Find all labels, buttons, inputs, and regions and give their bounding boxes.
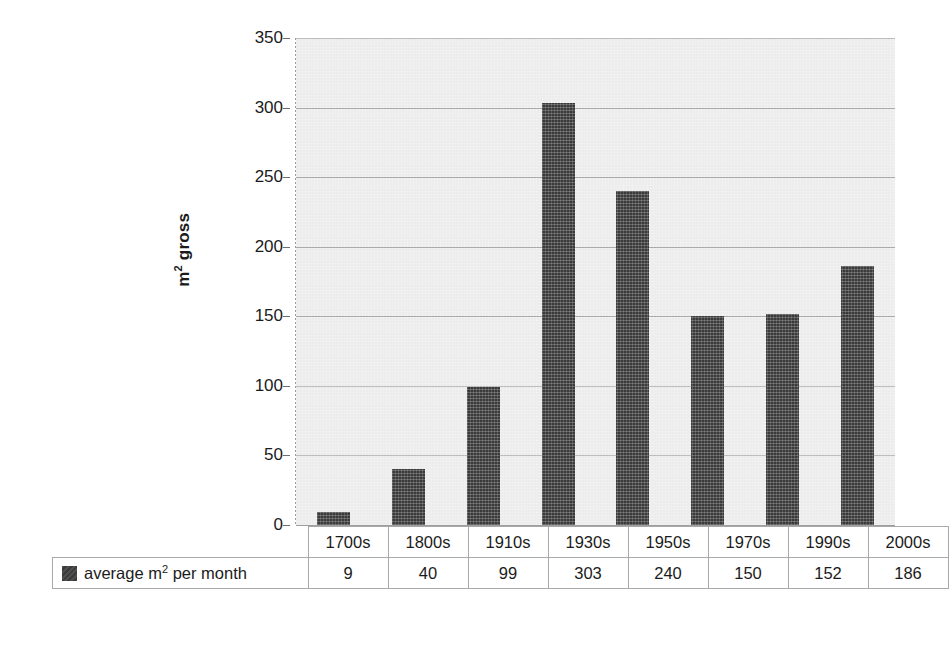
table-value-cell-1700s: 9 bbox=[308, 558, 388, 589]
y-tick-label-50: 50 bbox=[223, 445, 283, 465]
legend-label-rest: per month bbox=[168, 564, 247, 582]
legend-label-main: average m bbox=[84, 564, 162, 582]
table-header-spacer bbox=[53, 527, 309, 558]
y-tick-mark-150 bbox=[283, 316, 290, 317]
bar-1930s bbox=[542, 103, 575, 525]
table-value-cell-2000s: 186 bbox=[868, 558, 948, 589]
y-tick-label-100: 100 bbox=[223, 376, 283, 396]
table-header-cell-1910s: 1910s bbox=[468, 527, 548, 558]
gridline-350 bbox=[296, 38, 895, 39]
y-axis-title-rest: gross bbox=[174, 213, 193, 265]
bar-1990s bbox=[766, 314, 799, 525]
y-axis-title-superscript: 2 bbox=[172, 265, 184, 271]
table-value-cell-1990s: 152 bbox=[788, 558, 868, 589]
y-tick-label-350: 350 bbox=[223, 28, 283, 48]
bar-1970s bbox=[691, 316, 724, 525]
y-tick-label-150: 150 bbox=[223, 306, 283, 326]
table-header-cell-1970s: 1970s bbox=[708, 527, 788, 558]
bar-1800s bbox=[392, 469, 425, 525]
table-header-cell-1950s: 1950s bbox=[628, 527, 708, 558]
legend-label: average m2 per month bbox=[84, 564, 247, 582]
table-header-cell-1800s: 1800s bbox=[388, 527, 468, 558]
table-value-cell-1910s: 99 bbox=[468, 558, 548, 589]
bar-1910s bbox=[467, 387, 500, 525]
table-header-cell-1700s: 1700s bbox=[308, 527, 388, 558]
table-value-cell-1930s: 303 bbox=[548, 558, 628, 589]
table-value-row: average m2 per month 9409930324015015218… bbox=[53, 558, 949, 589]
gridline-50 bbox=[296, 455, 895, 456]
legend-swatch-icon bbox=[62, 566, 77, 581]
gridline-300 bbox=[296, 108, 895, 109]
bar-1950s bbox=[616, 191, 649, 525]
gridline-200 bbox=[296, 247, 895, 248]
y-axis-title-text: m2 gross bbox=[172, 213, 194, 287]
bar-2000s bbox=[841, 266, 874, 525]
data-table: 1700s1800s1910s1930s1950s1970s1990s2000s… bbox=[52, 526, 896, 589]
y-tick-label-200: 200 bbox=[223, 237, 283, 257]
table-header-cell-2000s: 2000s bbox=[868, 527, 948, 558]
table-header-cell-1990s: 1990s bbox=[788, 527, 868, 558]
y-axis-title-main: m bbox=[174, 272, 193, 287]
table-header-cell-1930s: 1930s bbox=[548, 527, 628, 558]
y-tick-mark-200 bbox=[283, 247, 290, 248]
legend-cell: average m2 per month bbox=[53, 558, 309, 589]
y-tick-mark-300 bbox=[283, 108, 290, 109]
table-header-row: 1700s1800s1910s1930s1950s1970s1990s2000s bbox=[53, 527, 949, 558]
y-tick-label-250: 250 bbox=[223, 167, 283, 187]
y-tick-label-300: 300 bbox=[223, 98, 283, 118]
data-table-grid: 1700s1800s1910s1930s1950s1970s1990s2000s… bbox=[52, 526, 949, 589]
y-tick-mark-100 bbox=[283, 386, 290, 387]
gridline-100 bbox=[296, 386, 895, 387]
table-value-cell-1800s: 40 bbox=[388, 558, 468, 589]
y-tick-mark-350 bbox=[283, 38, 290, 39]
y-tick-mark-250 bbox=[283, 177, 290, 178]
table-value-cell-1950s: 240 bbox=[628, 558, 708, 589]
plot-area bbox=[296, 38, 895, 525]
gridline-250 bbox=[296, 177, 895, 178]
table-value-cell-1970s: 150 bbox=[708, 558, 788, 589]
gridline-150 bbox=[296, 316, 895, 317]
y-tick-mark-50 bbox=[283, 455, 290, 456]
bar-1700s bbox=[317, 512, 350, 525]
